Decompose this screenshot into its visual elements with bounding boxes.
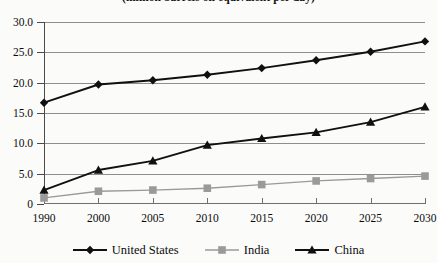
data-point-square [421, 172, 429, 180]
x-axis-tick-label: 2020 [305, 212, 328, 224]
plot-area: 05.010.015.020.025.030.0 199020002005201… [44, 22, 425, 204]
x-axis-tick-label: 2005 [141, 212, 164, 224]
y-axis-tick [37, 143, 44, 144]
series-united-states [40, 37, 429, 107]
y-axis-tick [37, 113, 44, 114]
x-axis-tick-label: 2030 [414, 212, 437, 224]
legend-item-united-states[interactable]: United States [73, 244, 179, 257]
legend-item-china[interactable]: China [295, 244, 364, 257]
series-india [40, 172, 429, 201]
chart-root: (million barrels oil equivalent per day)… [0, 0, 437, 263]
data-point-square [95, 187, 103, 195]
legend-marker-diamond-icon [73, 244, 107, 256]
x-axis-labels: 19902000200520102015202020252030 [44, 205, 425, 225]
data-point-diamond [366, 48, 374, 56]
y-axis-tick-label: 20.0 [13, 77, 33, 89]
data-point-diamond [258, 64, 266, 72]
y-axis-tick [37, 83, 44, 84]
data-point-diamond [203, 71, 211, 79]
data-point-square [218, 246, 226, 254]
x-axis-tick-label: 2015 [250, 212, 273, 224]
data-point-diamond [421, 37, 429, 45]
series-lines [44, 22, 425, 204]
y-axis-tick-label: 25.0 [13, 46, 33, 58]
x-axis-tick [425, 198, 426, 204]
legend-label: India [244, 244, 270, 257]
data-point-square [312, 177, 320, 185]
x-axis-tick-label: 2000 [87, 212, 110, 224]
x-axis-tick-label: 1990 [33, 212, 56, 224]
x-axis-tick-label: 2010 [196, 212, 219, 224]
y-axis-tick-label: 15.0 [13, 107, 33, 119]
data-point-square [40, 194, 48, 202]
data-point-diamond [312, 56, 320, 64]
y-axis-tick [37, 52, 44, 53]
y-axis-tick-label: 0 [27, 198, 33, 210]
legend-label: United States [112, 244, 179, 257]
legend-item-india[interactable]: India [205, 244, 270, 257]
chart-title: (million barrels oil equivalent per day) [0, 0, 437, 3]
legend-marker-triangle-icon [295, 244, 329, 256]
y-axis-tick-label: 10.0 [13, 137, 33, 149]
legend-label: China [334, 244, 364, 257]
legend-marker-square-icon [205, 244, 239, 256]
data-point-square [367, 175, 375, 183]
y-axis-tick [37, 174, 44, 175]
data-point-square [258, 181, 266, 189]
data-point-square [203, 184, 211, 192]
y-axis-tick-label: 30.0 [13, 16, 33, 28]
y-axis-tick-label: 5.0 [19, 168, 33, 180]
data-point-diamond [94, 80, 102, 88]
data-point-diamond [40, 98, 48, 106]
y-axis-tick [37, 22, 44, 23]
y-axis-tick [37, 204, 44, 205]
data-point-triangle [420, 102, 429, 110]
x-axis-tick-label: 2025 [359, 212, 382, 224]
data-point-diamond [86, 246, 94, 254]
data-point-square [149, 186, 157, 194]
data-point-diamond [149, 76, 157, 84]
chart-legend: United StatesIndiaChina [0, 244, 437, 257]
